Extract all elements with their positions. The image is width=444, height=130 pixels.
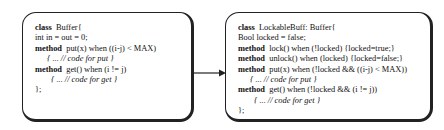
code-line: }; [35, 85, 191, 95]
code-line: class LockableBuff: Buffer{ [238, 23, 430, 33]
keyword: class [238, 23, 255, 32]
code-line: method unlock() when (locked) {locked=fa… [238, 54, 430, 64]
code-line: method lock() when (!locked) {locked=tru… [238, 44, 430, 54]
code-line: class Buffer{ [35, 23, 191, 33]
keyword: method [35, 65, 62, 74]
lockablebuff-class-box: class LockableBuff: Buffer{ Bool locked … [225, 12, 433, 122]
code-comment: { ... // code for get } [35, 75, 191, 85]
inheritance-arrow-icon [193, 68, 226, 78]
keyword: method [238, 85, 265, 94]
buffer-class-box: class Buffer{ int in = out = 0; method p… [22, 12, 194, 122]
code-line: }; [238, 106, 430, 116]
keyword: method [238, 54, 265, 63]
code-line: int in = out = 0; [35, 33, 191, 43]
keyword: method [35, 44, 62, 53]
code-comment: { ... // code for put } [35, 54, 191, 64]
code-line: method get() when (i != j) [35, 65, 191, 75]
code-line: Bool locked = false; [238, 33, 430, 43]
code-line: method put(x) when ((i-j) < MAX) [35, 44, 191, 54]
keyword: method [238, 65, 265, 74]
keyword: class [35, 23, 52, 32]
code-comment: { ... // code for get } [238, 96, 430, 106]
code-comment: { ... // code for put } [238, 75, 430, 85]
keyword: method [238, 44, 265, 53]
code-line: method get() when (!locked && (i != j)) [238, 85, 430, 95]
code-line: method put(x) when (!locked && ((i-j) < … [238, 65, 430, 75]
